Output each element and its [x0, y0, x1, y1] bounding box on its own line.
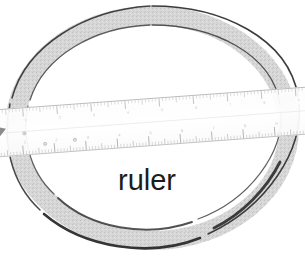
ruler-label: ruler	[118, 164, 176, 196]
label-layer: ruler	[0, 0, 305, 279]
ruler-diagram-scene: 123456789 12345678910 ruler	[0, 0, 305, 279]
